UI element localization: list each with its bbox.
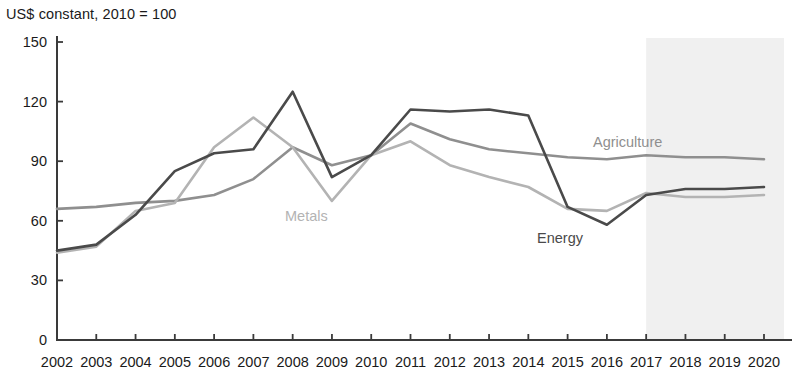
- x-tick-label: 2005: [159, 354, 191, 370]
- x-tick-label: 2004: [119, 354, 151, 370]
- x-tick-label: 2014: [512, 354, 544, 370]
- x-tick-label: 2006: [198, 354, 230, 370]
- x-tick-label: 2012: [434, 354, 466, 370]
- commodity-price-index-chart: US$ constant, 2010 = 100 0306090120150 2…: [0, 0, 801, 385]
- series-label-energy: Energy: [537, 230, 584, 246]
- x-tick-label: 2013: [473, 354, 505, 370]
- y-tick-label: 90: [31, 153, 47, 169]
- y-tick-label: 30: [31, 272, 47, 288]
- y-tick-label: 0: [39, 332, 47, 348]
- chart-plot-area: 0306090120150 20022003200420052006200720…: [0, 0, 801, 385]
- y-tick-label: 120: [23, 94, 47, 110]
- x-tick-label: 2018: [669, 354, 701, 370]
- y-tick-label: 150: [23, 34, 47, 50]
- x-tick-label: 2003: [80, 354, 112, 370]
- x-tick-label: 2009: [316, 354, 348, 370]
- x-tick-label: 2016: [591, 354, 623, 370]
- series-label-agriculture: Agriculture: [593, 134, 662, 150]
- series-label-metals: Metals: [285, 208, 328, 224]
- y-tick-label: 60: [31, 213, 47, 229]
- x-tick-label: 2002: [41, 354, 73, 370]
- x-tick-label: 2010: [355, 354, 387, 370]
- x-tick-label: 2008: [277, 354, 309, 370]
- x-tick-label: 2015: [551, 354, 583, 370]
- x-tick-label: 2011: [395, 354, 426, 370]
- x-tick-label: 2019: [709, 354, 741, 370]
- x-tick-label: 2007: [237, 354, 269, 370]
- x-tick-label: 2020: [748, 354, 780, 370]
- x-tick-label: 2017: [630, 354, 662, 370]
